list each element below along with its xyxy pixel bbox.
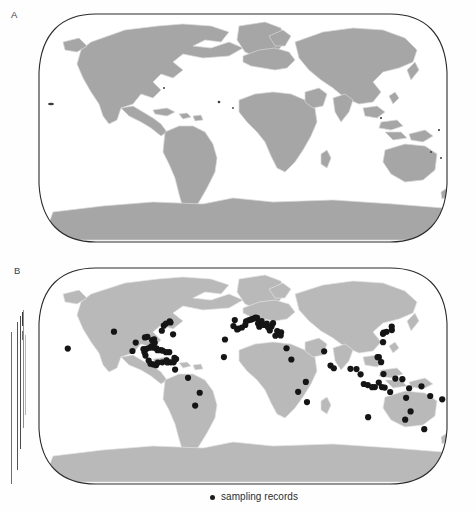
sampling-record-dot xyxy=(221,354,227,360)
legend-marker-icon xyxy=(210,495,215,500)
sampling-record-dot xyxy=(283,345,289,351)
artifact-bar xyxy=(22,331,23,340)
sampling-record-dot xyxy=(387,389,393,395)
sampling-record-dot xyxy=(402,417,408,423)
sampling-record-dot xyxy=(382,385,388,391)
sampling-record-dot xyxy=(321,348,327,354)
sampling-record-dot xyxy=(185,375,191,381)
artifact-bar xyxy=(25,335,26,415)
map-b-content xyxy=(33,266,453,486)
sampling-record-dot xyxy=(418,383,424,389)
sampling-record-dot xyxy=(133,340,139,346)
sampling-record-dot xyxy=(65,345,71,351)
sampling-record-dot xyxy=(383,329,389,335)
sampling-record-dot xyxy=(331,365,337,371)
map-a-svg xyxy=(33,12,453,244)
sampling-record-dot xyxy=(421,426,427,432)
sampling-record-dot xyxy=(392,375,398,381)
artifact-bar xyxy=(17,322,18,470)
sampling-record-dot xyxy=(232,317,238,323)
sampling-record-dot xyxy=(197,390,203,396)
sampling-record-dot xyxy=(303,379,309,385)
sampling-record-dot xyxy=(111,329,117,335)
sampling-record-dot xyxy=(380,371,386,377)
panel-b: B xyxy=(0,255,476,511)
sampling-record-dot xyxy=(378,359,384,365)
sampling-record-dot xyxy=(365,414,371,420)
panel-a: A xyxy=(0,0,476,255)
sampling-record-dot xyxy=(347,366,353,372)
artifact-bar xyxy=(23,310,24,428)
sampling-record-dot xyxy=(288,356,294,362)
panel-a-label: A xyxy=(11,10,18,20)
legend: sampling records xyxy=(210,492,298,502)
artifact-bar xyxy=(11,332,12,484)
sampling-record-dot xyxy=(403,395,409,401)
sampling-record-dot xyxy=(192,402,198,408)
sampling-record-dot xyxy=(353,366,359,372)
map-a-content xyxy=(33,12,453,244)
sampling-record-dot xyxy=(295,389,301,395)
sampling-record-dot xyxy=(304,399,310,405)
sampling-record-dot xyxy=(278,329,284,335)
sampling-record-dot xyxy=(167,319,173,325)
sampling-record-dot xyxy=(427,393,433,399)
figure-root: A xyxy=(0,0,476,511)
sampling-record-dot xyxy=(406,385,412,391)
map-b-svg xyxy=(33,266,453,486)
sampling-record-dot xyxy=(129,348,135,354)
sampling-record-dot xyxy=(439,396,445,402)
world-map-b xyxy=(33,266,453,486)
legend-label: sampling records xyxy=(221,492,298,502)
artifact-bar xyxy=(22,312,23,326)
sampling-record-dot xyxy=(140,346,146,352)
world-map-a xyxy=(33,12,453,244)
sampling-record-dot xyxy=(270,320,276,326)
sampling-record-dot xyxy=(170,331,176,337)
sampling-record-dot xyxy=(380,339,386,345)
sampling-record-dot xyxy=(172,366,178,372)
sampling-record-dot xyxy=(222,336,228,342)
sampling-record-dot xyxy=(399,376,405,382)
sampling-record-dot xyxy=(389,324,395,330)
sampling-record-dot xyxy=(407,408,413,414)
sampling-record-dot xyxy=(171,359,177,365)
sampling-record-dot xyxy=(358,371,364,377)
